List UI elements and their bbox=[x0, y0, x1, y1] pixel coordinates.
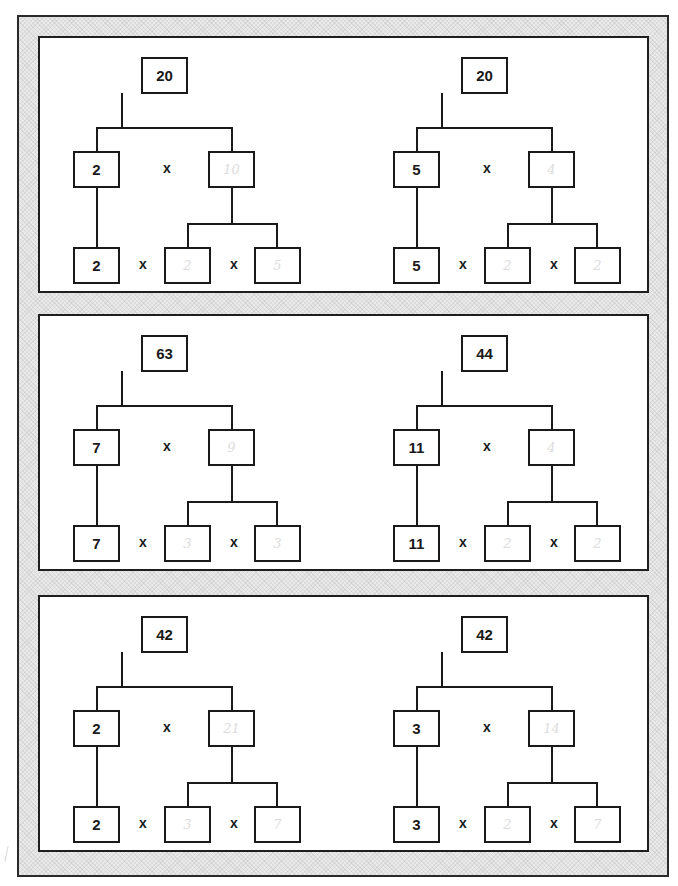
root-number-box: 20 bbox=[461, 57, 508, 94]
left-factor-box: 11 bbox=[393, 429, 440, 466]
factor-tree: 20 5 x 4 5 x 2 x 2 bbox=[393, 38, 678, 295]
connector-line bbox=[416, 127, 418, 151]
bottom-mid-input[interactable]: 3 bbox=[164, 525, 211, 562]
connector-line bbox=[507, 223, 509, 247]
connector-line bbox=[276, 223, 278, 247]
connector-line bbox=[441, 93, 443, 128]
connector-line bbox=[96, 405, 233, 407]
bottom-mid-input[interactable]: 3 bbox=[164, 806, 211, 843]
times-sign: x bbox=[135, 815, 151, 831]
times-sign: x bbox=[546, 256, 562, 272]
factor-tree: 42 2 x 21 2 x 3 x 7 bbox=[73, 597, 373, 854]
connector-line bbox=[416, 686, 553, 688]
right-factor-input[interactable]: 21 bbox=[208, 710, 255, 747]
times-sign: x bbox=[455, 815, 471, 831]
bottom-mid-input[interactable]: 2 bbox=[484, 247, 531, 284]
connector-line bbox=[121, 371, 123, 406]
root-number-box: 63 bbox=[141, 335, 188, 372]
factor-panel-1: 20 2 x 10 2 x 2 x 5 20 5 x 4 5 x 2 bbox=[38, 36, 649, 293]
connector-line bbox=[187, 501, 189, 525]
connector-line bbox=[551, 405, 553, 429]
connector-line bbox=[551, 686, 553, 710]
bottom-right-input[interactable]: 7 bbox=[574, 806, 621, 843]
connector-line bbox=[187, 501, 278, 503]
connector-line bbox=[551, 465, 553, 502]
connector-line bbox=[551, 127, 553, 151]
connector-line bbox=[121, 93, 123, 128]
connector-line bbox=[121, 652, 123, 687]
root-number-box: 44 bbox=[461, 335, 508, 372]
connector-line bbox=[96, 465, 98, 525]
times-sign: x bbox=[226, 815, 242, 831]
connector-line bbox=[596, 782, 598, 806]
factor-tree: 63 7 x 9 7 x 3 x 3 bbox=[73, 316, 373, 573]
times-sign: x bbox=[135, 534, 151, 550]
right-factor-input[interactable]: 4 bbox=[528, 151, 575, 188]
times-sign: x bbox=[479, 719, 495, 735]
connector-line bbox=[187, 223, 189, 247]
bottom-mid-input[interactable]: 2 bbox=[484, 525, 531, 562]
connector-line bbox=[96, 686, 233, 688]
connector-line bbox=[187, 782, 189, 806]
connector-line bbox=[441, 652, 443, 687]
right-factor-input[interactable]: 14 bbox=[528, 710, 575, 747]
connector-line bbox=[507, 501, 509, 525]
left-factor-box: 7 bbox=[73, 429, 120, 466]
times-sign: x bbox=[546, 534, 562, 550]
factor-panel-2: 63 7 x 9 7 x 3 x 3 44 11 x 4 11 x 2 bbox=[38, 314, 649, 571]
factor-tree: 44 11 x 4 11 x 2 x 2 bbox=[393, 316, 678, 573]
times-sign: x bbox=[226, 534, 242, 550]
factor-tree: 20 2 x 10 2 x 2 x 5 bbox=[73, 38, 373, 295]
right-factor-input[interactable]: 4 bbox=[528, 429, 575, 466]
root-number-box: 20 bbox=[141, 57, 188, 94]
bottom-right-input[interactable]: 2 bbox=[574, 525, 621, 562]
connector-line bbox=[416, 686, 418, 710]
bottom-right-input[interactable]: 3 bbox=[254, 525, 301, 562]
connector-line bbox=[416, 405, 418, 429]
connector-line bbox=[96, 127, 98, 151]
root-number-box: 42 bbox=[461, 616, 508, 653]
right-factor-input[interactable]: 9 bbox=[208, 429, 255, 466]
bottom-right-input[interactable]: 2 bbox=[574, 247, 621, 284]
times-sign: x bbox=[455, 534, 471, 550]
bottom-left-box: 2 bbox=[73, 247, 120, 284]
bottom-right-input[interactable]: 5 bbox=[254, 247, 301, 284]
connector-line bbox=[551, 187, 553, 224]
bottom-mid-input[interactable]: 2 bbox=[484, 806, 531, 843]
bottom-left-box: 3 bbox=[393, 806, 440, 843]
bottom-left-box: 11 bbox=[393, 525, 440, 562]
times-sign: x bbox=[226, 256, 242, 272]
connector-line bbox=[507, 223, 598, 225]
connector-line bbox=[416, 746, 418, 806]
left-factor-box: 2 bbox=[73, 151, 120, 188]
times-sign: x bbox=[135, 256, 151, 272]
right-factor-input[interactable]: 10 bbox=[208, 151, 255, 188]
connector-line bbox=[507, 501, 598, 503]
stray-pencil-mark bbox=[4, 846, 8, 862]
connector-line bbox=[416, 127, 553, 129]
factor-tree: 42 3 x 14 3 x 2 x 7 bbox=[393, 597, 678, 854]
connector-line bbox=[416, 405, 553, 407]
connector-line bbox=[96, 187, 98, 247]
connector-line bbox=[416, 465, 418, 525]
connector-line bbox=[596, 501, 598, 525]
bottom-left-box: 7 bbox=[73, 525, 120, 562]
connector-line bbox=[596, 223, 598, 247]
connector-line bbox=[507, 782, 598, 784]
left-factor-box: 2 bbox=[73, 710, 120, 747]
connector-line bbox=[231, 187, 233, 224]
connector-line bbox=[441, 371, 443, 406]
bottom-right-input[interactable]: 7 bbox=[254, 806, 301, 843]
bottom-mid-input[interactable]: 2 bbox=[164, 247, 211, 284]
times-sign: x bbox=[479, 438, 495, 454]
connector-line bbox=[276, 501, 278, 525]
connector-line bbox=[276, 782, 278, 806]
times-sign: x bbox=[455, 256, 471, 272]
connector-line bbox=[231, 127, 233, 151]
factor-panel-3: 42 2 x 21 2 x 3 x 7 42 3 x 14 3 x 2 bbox=[38, 595, 649, 852]
left-factor-box: 5 bbox=[393, 151, 440, 188]
connector-line bbox=[96, 127, 233, 129]
connector-line bbox=[96, 746, 98, 806]
times-sign: x bbox=[546, 815, 562, 831]
connector-line bbox=[96, 686, 98, 710]
